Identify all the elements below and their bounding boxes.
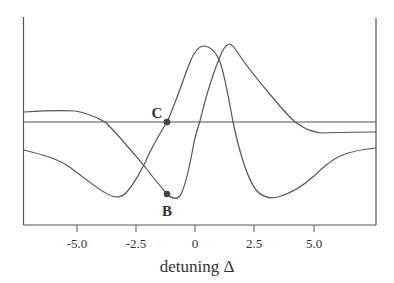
curve-2: [24, 44, 376, 198]
x-tick-label: 0: [192, 236, 199, 251]
point-c-label: C: [152, 105, 163, 121]
x-tick-labels: -5.0 -2.5 0 2.5 5.0: [67, 236, 322, 251]
chart: -5.0 -2.5 0 2.5 5.0 detuning Δ C B: [0, 0, 394, 283]
x-axis-title: detuning Δ: [160, 257, 235, 276]
x-tick-label: 2.5: [246, 236, 262, 251]
x-tick-label: 5.0: [306, 236, 322, 251]
x-tick-label: -5.0: [67, 236, 88, 251]
point-b-label: B: [162, 203, 172, 219]
x-ticks: [77, 225, 314, 232]
point-c-marker: [164, 119, 171, 126]
annotation-b: B: [162, 191, 172, 219]
x-tick-label: -2.5: [126, 236, 147, 251]
point-b-marker: [164, 191, 171, 198]
